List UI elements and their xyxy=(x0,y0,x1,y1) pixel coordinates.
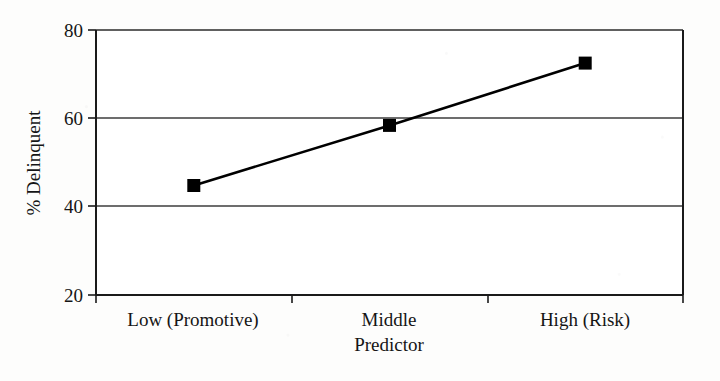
line-chart: 80 60 40 20 % Delinquent Low (Promotive)… xyxy=(0,0,720,381)
x-tick-label-middle: Middle xyxy=(362,309,417,330)
x-axis-title: Predictor xyxy=(354,334,424,355)
chart-screenshot: 80 60 40 20 % Delinquent Low (Promotive)… xyxy=(0,0,720,381)
data-point-marker xyxy=(187,179,200,192)
y-axis-title: % Delinquent xyxy=(23,110,44,216)
y-tick-label-60: 60 xyxy=(64,108,83,129)
x-tick-label-high: High (Risk) xyxy=(540,309,630,331)
y-tick-label-20: 20 xyxy=(64,285,83,306)
plot-background xyxy=(96,30,683,295)
y-tick-label-40: 40 xyxy=(64,196,83,217)
data-point-marker xyxy=(579,57,592,70)
y-tick-label-80: 80 xyxy=(64,20,83,41)
data-point-marker xyxy=(383,119,396,132)
x-tick-label-low: Low (Promotive) xyxy=(127,309,258,331)
